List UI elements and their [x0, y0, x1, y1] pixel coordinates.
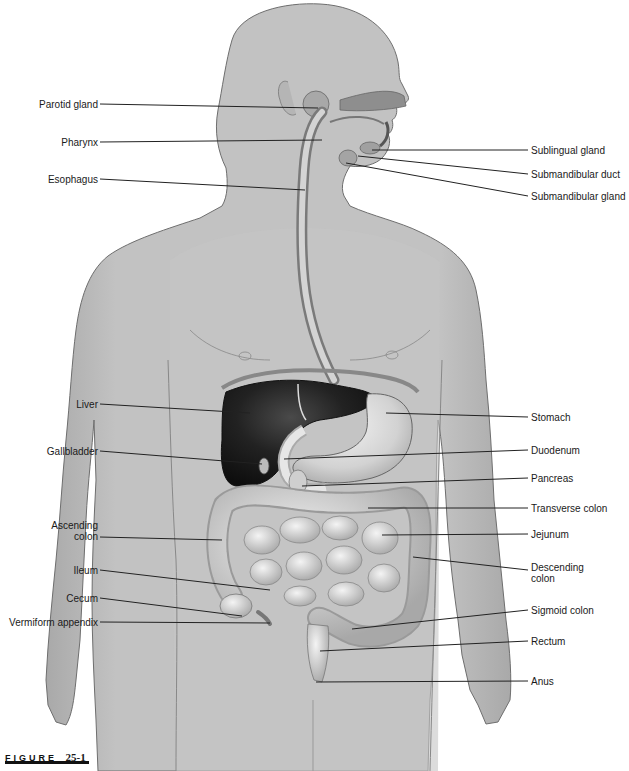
label-submandibular-duct: Submandibular duct: [531, 169, 620, 180]
label-pancreas: Pancreas: [531, 473, 573, 484]
label-duodenum: Duodenum: [531, 445, 580, 456]
label-ascending-colon: Ascending colon: [51, 520, 98, 542]
label-pharynx: Pharynx: [61, 137, 98, 148]
label-descending-colon: Descending colon: [531, 562, 584, 584]
label-ileum: Ileum: [74, 565, 98, 576]
leader-line-submandibular-duct: [358, 156, 528, 174]
digestive-system-illustration: [0, 0, 629, 771]
caption-underline: [5, 761, 89, 764]
label-liver: Liver: [76, 399, 98, 410]
label-stomach: Stomach: [531, 412, 570, 423]
label-parotid-gland: Parotid gland: [39, 99, 98, 110]
label-esophagus: Esophagus: [48, 174, 98, 185]
leader-line-submandibular-gland: [346, 163, 528, 196]
label-rectum: Rectum: [531, 636, 565, 647]
label-sigmoid-colon: Sigmoid colon: [531, 605, 594, 616]
label-gallbladder: Gallbladder: [47, 446, 98, 457]
label-cecum: Cecum: [66, 593, 98, 604]
label-submandibular-gland: Submandibular gland: [531, 191, 626, 202]
label-anus: Anus: [531, 676, 554, 687]
label-jejunum: Jejunum: [531, 529, 569, 540]
label-vermiform-appendix: Vermiform appendix: [9, 617, 98, 628]
label-transverse-colon: Transverse colon: [531, 503, 607, 514]
label-sublingual-gland: Sublingual gland: [531, 145, 605, 156]
